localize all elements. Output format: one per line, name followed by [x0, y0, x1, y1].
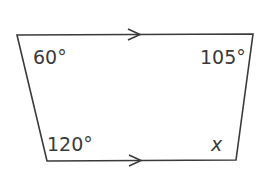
angle-label-top-left: 60°	[33, 46, 67, 68]
trapezium-diagram: 60° 105° 120° x	[0, 0, 268, 192]
angle-label-bottom-right: x	[210, 133, 223, 155]
angle-label-bottom-left: 120°	[47, 133, 93, 155]
angle-label-top-right: 105°	[200, 46, 246, 68]
